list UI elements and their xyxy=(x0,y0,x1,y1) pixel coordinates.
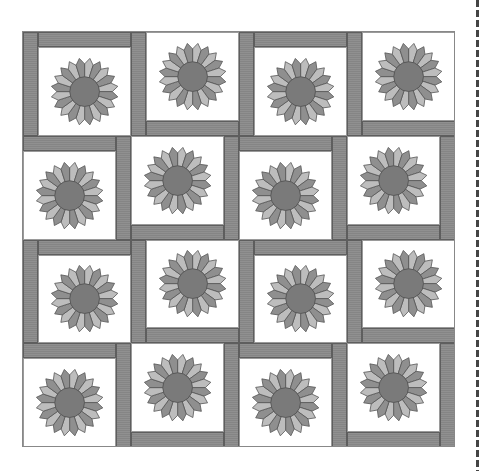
sashing-strip-top xyxy=(23,343,116,358)
flower-motif-icon xyxy=(35,161,104,234)
flower-motif-icon xyxy=(266,264,335,337)
sashing-strip-right xyxy=(440,343,455,447)
sashing-strip-right xyxy=(224,343,239,447)
flower-motif-icon xyxy=(251,368,320,441)
sashing-strip-right xyxy=(116,136,131,240)
sashing-strip-left xyxy=(239,32,254,136)
sashing-strip-right xyxy=(116,343,131,447)
sashing-strip-right xyxy=(332,343,347,447)
sashing-strip-bottom xyxy=(131,432,224,447)
sashing-strip-left xyxy=(347,32,362,136)
sashing-strip-top xyxy=(254,32,347,47)
sashing-strip-top xyxy=(239,343,332,358)
flower-motif-icon xyxy=(374,42,443,115)
sashing-strip-bottom xyxy=(347,225,440,240)
sashing-strip-bottom xyxy=(146,121,239,136)
sashing-strip-bottom xyxy=(146,328,239,343)
sashing-strip-left xyxy=(347,240,362,344)
flower-motif-icon xyxy=(35,368,104,441)
flower-motif-icon xyxy=(50,57,119,130)
sashing-strip-top xyxy=(38,32,131,47)
sashing-strip-top xyxy=(239,136,332,151)
flower-motif-icon xyxy=(143,146,212,219)
flower-motif-icon xyxy=(251,161,320,234)
sashing-strip-right xyxy=(440,136,455,240)
quilt-block xyxy=(131,136,239,240)
flower-motif-icon xyxy=(158,249,227,322)
sashing-strip-bottom xyxy=(131,225,224,240)
quilt-block xyxy=(347,136,455,240)
sashing-strip-left xyxy=(131,240,146,344)
quilt-block xyxy=(239,343,347,447)
flower-motif-icon xyxy=(158,42,227,115)
sashing-strip-left xyxy=(131,32,146,136)
sashing-strip-left xyxy=(239,240,254,344)
quilt-block xyxy=(239,136,347,240)
flower-motif-icon xyxy=(359,146,428,219)
sashing-strip-right xyxy=(224,136,239,240)
dashed-cut-line xyxy=(476,0,479,471)
sashing-strip-left xyxy=(23,240,38,344)
flower-motif-icon xyxy=(50,264,119,337)
quilt-block xyxy=(347,343,455,447)
sashing-strip-top xyxy=(254,240,347,255)
quilt-block xyxy=(23,343,131,447)
quilt-block xyxy=(131,32,239,136)
quilt-block xyxy=(347,32,455,136)
sashing-strip-right xyxy=(332,136,347,240)
quilt-block xyxy=(23,136,131,240)
quilt-block xyxy=(23,240,131,344)
sashing-strip-left xyxy=(23,32,38,136)
quilt-block xyxy=(131,343,239,447)
sashing-strip-bottom xyxy=(347,432,440,447)
quilt-block xyxy=(131,240,239,344)
quilt-block xyxy=(239,32,347,136)
sashing-strip-top xyxy=(23,136,116,151)
flower-motif-icon xyxy=(374,249,443,322)
quilt-block xyxy=(347,240,455,344)
quilt-block xyxy=(23,32,131,136)
sashing-strip-bottom xyxy=(362,328,455,343)
quilt-diagram xyxy=(23,32,455,447)
flower-motif-icon xyxy=(143,353,212,426)
quilt-block xyxy=(239,240,347,344)
sashing-strip-top xyxy=(38,240,131,255)
flower-motif-icon xyxy=(359,353,428,426)
flower-motif-icon xyxy=(266,57,335,130)
sashing-strip-bottom xyxy=(362,121,455,136)
